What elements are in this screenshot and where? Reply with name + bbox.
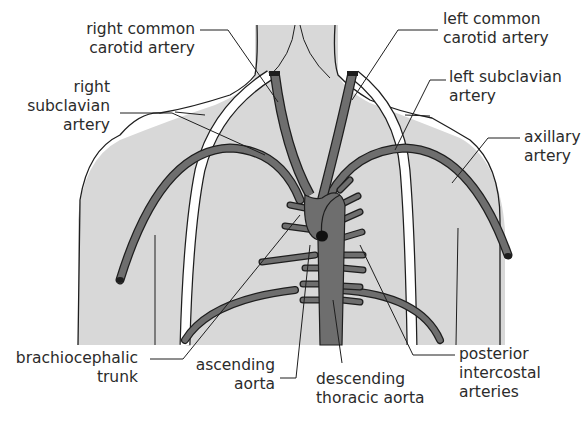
clavicle-right (405, 115, 430, 116)
label-brachiocephalic: brachiocephalic trunk (10, 349, 138, 387)
label-axillary: axillary artery (524, 128, 581, 166)
label-left-subclavian: left subclavian artery (449, 68, 562, 106)
label-left-common-carotid: left common carotid artery (443, 10, 549, 48)
label-ascending-aorta: ascending aorta (190, 356, 275, 394)
label-descending-aorta: descending thoracic aorta (316, 370, 424, 408)
label-right-subclavian: right subclavian artery (20, 78, 110, 135)
label-posterior-intercostal: posterior intercostal arteries (459, 345, 541, 402)
left-axillary-end (504, 253, 512, 259)
label-right-common-carotid: right common carotid artery (70, 20, 195, 58)
ascending-aorta-cut (316, 231, 328, 242)
right-axillary-end (116, 277, 124, 283)
